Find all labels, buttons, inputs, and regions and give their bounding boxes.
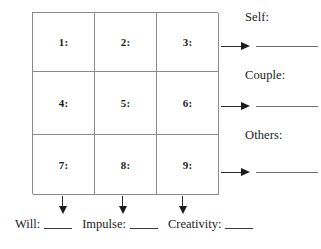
column-output-label-creativity: Creativity:	[168, 217, 221, 231]
grid-cell-1[interactable]: 1:	[33, 13, 95, 72]
grid-cell-label: 9:	[183, 159, 193, 171]
arrow-down-head-icon	[59, 206, 67, 214]
arrow-right-icon	[221, 172, 242, 173]
column-output-creativity: Creativity:	[168, 217, 253, 231]
column-output-will: Will:	[15, 217, 72, 231]
grid-cell-label: 5:	[121, 97, 131, 109]
grid-cell-5[interactable]: 5:	[95, 72, 157, 135]
arrow-down-head-icon	[179, 206, 187, 214]
row-output-label-self: Self:	[245, 10, 269, 25]
column-output-blank-impulse[interactable]	[130, 228, 158, 229]
grid-cell-4[interactable]: 4:	[33, 72, 95, 135]
column-output-label-will: Will:	[15, 217, 40, 231]
grid-cell-label: 3:	[183, 36, 193, 48]
row-output-blank-self[interactable]	[256, 46, 318, 47]
arrow-right-icon	[221, 46, 242, 47]
column-output-impulse: Impulse:	[82, 217, 158, 231]
grid-cell-3[interactable]: 3:	[157, 13, 219, 72]
grid-cell-label: 7:	[59, 159, 69, 171]
row-output-blank-others[interactable]	[256, 172, 318, 173]
arrow-down-head-icon	[119, 206, 127, 214]
row-output-arrow-others	[221, 167, 318, 177]
grid-cell-9[interactable]: 9:	[157, 135, 219, 195]
grid-cell-2[interactable]: 2:	[95, 13, 157, 72]
row-output-blank-couple[interactable]	[256, 106, 318, 107]
grid-cell-label: 8:	[121, 159, 131, 171]
grid-cell-label: 6:	[183, 97, 193, 109]
column-output-arrow-creativity	[178, 196, 187, 214]
column-output-label-impulse: Impulse:	[82, 217, 126, 231]
grid-cell-label: 2:	[121, 36, 131, 48]
arrow-right-head-icon	[241, 102, 250, 110]
nine-cell-grid: 1: 2: 3: 4: 5: 6: 7: 8: 9:	[32, 12, 218, 194]
column-output-arrow-impulse	[118, 196, 127, 214]
column-output-blank-creativity[interactable]	[225, 228, 253, 229]
grid-cell-label: 4:	[59, 97, 69, 109]
row-output-label-others: Others:	[245, 128, 283, 143]
grid-cell-label: 1:	[59, 36, 69, 48]
worksheet-diagram: 1: 2: 3: 4: 5: 6: 7: 8: 9: Self: Couple:…	[0, 0, 321, 249]
grid-cell-6[interactable]: 6:	[157, 72, 219, 135]
column-output-blank-will[interactable]	[44, 228, 72, 229]
arrow-right-head-icon	[241, 42, 250, 50]
row-output-label-couple: Couple:	[245, 68, 285, 83]
grid-cell-7[interactable]: 7:	[33, 135, 95, 195]
column-outputs-row: Will: Impulse: Creativity:	[15, 217, 253, 231]
row-output-arrow-self	[221, 41, 318, 51]
column-output-arrow-will	[58, 196, 67, 214]
arrow-right-icon	[221, 106, 242, 107]
grid-cell-8[interactable]: 8:	[95, 135, 157, 195]
arrow-right-head-icon	[241, 168, 250, 176]
row-output-arrow-couple	[221, 101, 318, 111]
